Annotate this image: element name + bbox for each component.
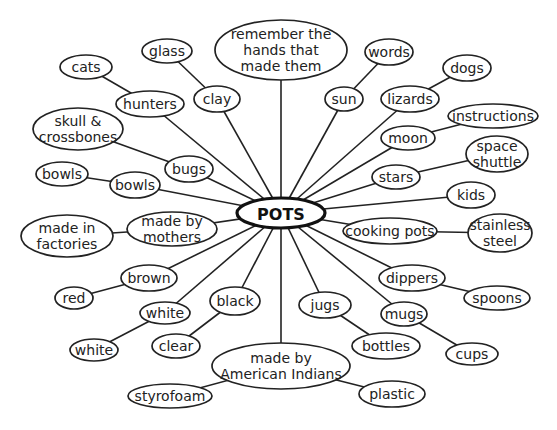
node-label: brown — [127, 270, 170, 286]
node-label: shuttle — [473, 154, 522, 170]
node-label: bottles — [362, 338, 410, 354]
node-plastic: plastic — [359, 381, 425, 407]
node-label: plastic — [369, 386, 415, 402]
node-skull-crossbones: skull &crossbones — [33, 108, 123, 150]
node-made-by-mothers: made bymothers — [127, 212, 217, 246]
node-jugs: jugs — [299, 292, 351, 318]
node-label: dippers — [386, 270, 438, 286]
node-label: mugs — [385, 306, 424, 322]
node-cats: cats — [60, 55, 112, 79]
node-label: styrofoam — [135, 388, 206, 404]
node-label: made them — [241, 58, 322, 74]
node-cups: cups — [446, 343, 498, 365]
node-made-in-factories: made infactories — [21, 215, 113, 257]
node-label: factories — [37, 236, 98, 252]
node-glass: glass — [142, 39, 192, 63]
node-words: words — [365, 39, 413, 65]
node-label: clear — [159, 338, 194, 354]
node-label: hunters — [123, 96, 177, 112]
node-white-outer: white — [70, 339, 118, 361]
node-bowls-outer: bowls — [36, 162, 88, 186]
node-label: mothers — [143, 229, 201, 245]
node-label: cats — [71, 59, 100, 75]
node-label: skull & — [55, 113, 102, 129]
connector-lizards-to-pots — [281, 99, 410, 213]
node-label: remember the — [231, 26, 332, 42]
node-label: white — [146, 305, 184, 321]
node-label: red — [63, 290, 86, 306]
node-label: crossbones — [39, 129, 118, 145]
node-stainless-steel: stainlesssteel — [468, 214, 532, 252]
node-label: steel — [483, 233, 517, 249]
node-dogs: dogs — [443, 55, 491, 81]
node-mugs: mugs — [381, 302, 427, 326]
node-kids: kids — [447, 182, 495, 208]
node-label: instructions — [452, 108, 534, 124]
node-label: jugs — [310, 297, 340, 313]
node-label: American Indians — [220, 366, 342, 382]
node-bowls-inner: bowls — [110, 172, 160, 198]
node-styrofoam: styrofoam — [128, 384, 212, 408]
node-label: bowls — [115, 177, 155, 193]
node-dippers: dippers — [379, 265, 445, 291]
node-label: cups — [456, 346, 489, 362]
node-label: kids — [457, 187, 485, 203]
node-bugs: bugs — [165, 156, 213, 182]
node-label: sun — [331, 91, 356, 107]
node-label: black — [216, 293, 254, 309]
pots-concept-web: remember thehands thatmade themclayglass… — [0, 0, 557, 430]
connector-hunters-to-pots — [150, 104, 281, 213]
node-made-by-american-indians: made byAmerican Indians — [212, 343, 350, 389]
node-sun: sun — [325, 87, 363, 111]
node-stars: stars — [372, 165, 420, 189]
node-label: stainless — [469, 217, 530, 233]
node-label: dogs — [450, 60, 484, 76]
node-instructions: instructions — [448, 104, 538, 128]
node-white-inner: white — [140, 302, 190, 324]
node-label: bowls — [42, 166, 82, 182]
center-node: POTS — [237, 198, 325, 228]
node-hunters: hunters — [116, 91, 184, 117]
node-label: made by — [141, 213, 202, 229]
node-remember: remember thehands thatmade them — [215, 20, 347, 80]
node-label: clay — [203, 91, 231, 107]
node-label: moon — [388, 130, 428, 146]
node-red: red — [55, 287, 93, 309]
node-space-shuttle: spaceshuttle — [466, 136, 528, 172]
node-label: hands that — [243, 42, 319, 58]
node-label: made in — [39, 220, 96, 236]
node-bottles: bottles — [352, 333, 420, 359]
node-label: space — [476, 138, 517, 154]
node-label: bugs — [172, 161, 206, 177]
node-label: spoons — [472, 290, 521, 306]
node-label: lizards — [387, 91, 432, 107]
node-moon: moon — [381, 126, 435, 150]
node-label: words — [368, 44, 410, 60]
node-label: white — [75, 342, 113, 358]
node-label: cooking pots — [345, 223, 434, 239]
node-cooking-pots: cooking pots — [343, 218, 437, 244]
node-label: stars — [379, 169, 413, 185]
center-node-label: POTS — [257, 205, 305, 224]
node-clear: clear — [152, 334, 200, 358]
node-label: made by — [250, 350, 311, 366]
node-spoons: spoons — [464, 286, 530, 310]
node-brown: brown — [121, 265, 177, 291]
node-lizards: lizards — [381, 86, 439, 112]
node-black: black — [210, 287, 260, 315]
node-label: glass — [149, 43, 185, 59]
connector-clay-to-pots — [217, 99, 281, 213]
node-clay: clay — [194, 86, 240, 112]
